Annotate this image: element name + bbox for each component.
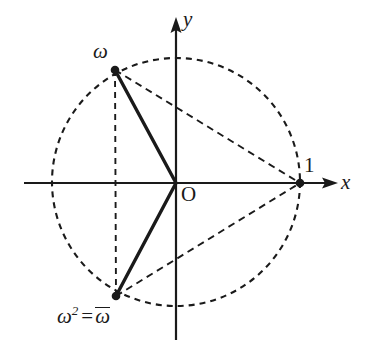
point-marker-omega-squared [112,292,121,301]
overbar-glyph [95,307,110,308]
label-omega: ω [93,41,108,62]
label-y-axis: y [183,9,192,30]
label-origin: O [181,184,196,205]
chord-omega-squared-to-one [116,183,300,296]
chord-omega-to-omega-squared [115,70,116,296]
point-marker-omega [111,66,120,75]
label-omega-squared-base: ω [57,304,72,328]
label-omega-conjugate: ω [95,306,110,327]
complex-plane-figure: ω y x 1 O ω2=ω [0,0,374,358]
label-equals-sign: = [78,304,95,328]
point-marker-one [296,179,305,188]
label-omega-squared: ω2=ω [57,304,110,327]
label-x-axis: x [341,172,350,193]
chord-omega-to-one [115,70,300,183]
radius-origin-to-omega [115,70,176,183]
radius-origin-to-omega-squared [116,183,176,296]
label-unity-point: 1 [304,155,315,176]
